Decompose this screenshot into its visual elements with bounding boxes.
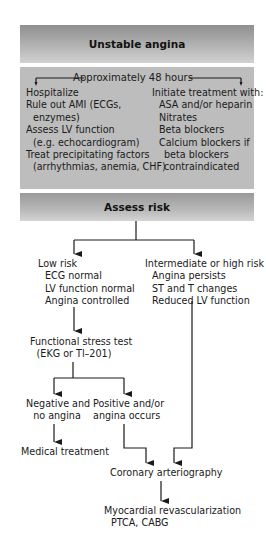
duration-bracket xyxy=(35,78,243,86)
flow-connectors xyxy=(0,0,266,538)
